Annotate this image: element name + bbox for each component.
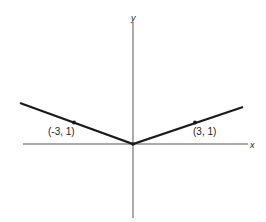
point-right-marker [193,121,197,125]
graph-canvas: (-3, 1) (3, 1) x y [0,0,266,222]
origin-vertex-marker [131,142,135,146]
point-left-label: (-3, 1) [48,126,75,137]
point-right-label: (3, 1) [193,126,216,137]
absolute-value-curve [20,103,243,144]
x-axis-label: x [249,140,255,150]
y-axis-label: y [130,13,136,23]
point-left-marker [72,121,76,125]
